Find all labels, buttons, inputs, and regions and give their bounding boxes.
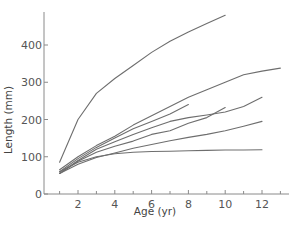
x-tick-label: 12 <box>255 198 269 211</box>
series-lines <box>60 15 281 173</box>
series-curve-5 <box>60 108 226 174</box>
series-curve-1 <box>60 15 226 162</box>
growth-curves-chart: 0100200300400 24681012 Age (yr) Length (… <box>0 0 300 228</box>
y-tick-label: 300 <box>21 76 42 89</box>
y-tick-label: 100 <box>21 151 42 164</box>
y-axis-title: Length (mm) <box>2 86 14 154</box>
x-tick-label: 8 <box>185 198 192 211</box>
x-tick-label: 4 <box>111 198 118 211</box>
y-tick-label: 200 <box>21 114 42 127</box>
series-curve-4 <box>60 97 262 173</box>
series-curve-6 <box>60 121 262 173</box>
x-axis-title: Age (yr) <box>134 205 176 217</box>
x-tick-label: 10 <box>218 198 232 211</box>
y-tick-label: 400 <box>21 39 42 52</box>
axes: 0100200300400 24681012 <box>21 12 289 211</box>
y-tick-label: 0 <box>35 188 42 201</box>
x-tick-label: 2 <box>75 198 82 211</box>
